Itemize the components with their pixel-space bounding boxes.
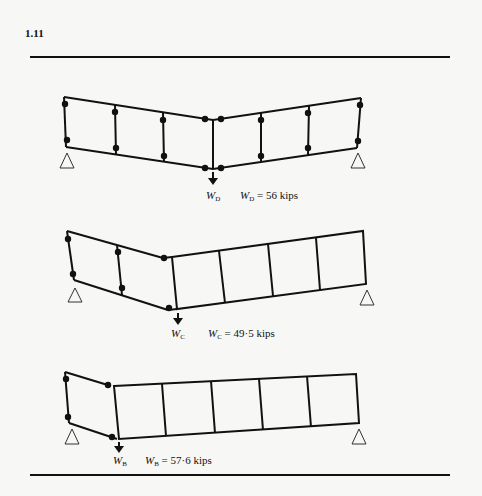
hinge-dot [305, 145, 311, 151]
hinge-dot [166, 305, 172, 311]
load-arrow-C-icon [173, 313, 183, 325]
equation-subscript: C [217, 333, 222, 341]
mechanism-C-truss [67, 231, 366, 310]
hinge-dot [65, 414, 71, 420]
hinge-dot [70, 271, 76, 277]
hinge-dot [258, 117, 264, 123]
hinge-dot [112, 109, 118, 115]
hinge-dot [109, 434, 115, 440]
load-value-B: WB = 57·6 kips [145, 454, 212, 468]
vertical [259, 379, 263, 430]
load-symbol: W [206, 189, 215, 201]
load-label-C: WC [171, 327, 185, 341]
load-symbol: W [171, 327, 180, 339]
hinge-dot [357, 102, 363, 108]
equation-value: = 49·5 kips [225, 327, 275, 339]
hinge-dot [63, 376, 69, 382]
equation-value: = 57·6 kips [162, 454, 212, 466]
bottom-rule [30, 474, 450, 476]
vertical [211, 381, 215, 433]
rigid-panel [172, 231, 366, 309]
vertical [219, 251, 225, 303]
vertical [316, 238, 320, 290]
hinge-dot [161, 153, 167, 159]
hinge-dot [161, 255, 167, 261]
hinge-dot [258, 153, 264, 159]
load-value-C: WC = 49·5 kips [208, 327, 275, 341]
equation-value: = 56 kips [257, 189, 298, 201]
hinge-dot [115, 249, 121, 255]
hinge-dot [105, 382, 111, 388]
hinge-dot [218, 165, 224, 171]
support-triangle-icon [352, 429, 366, 444]
bottom-chord [66, 147, 357, 169]
load-label-B: WB [113, 454, 127, 468]
hinge-dot [218, 116, 224, 122]
support-triangle-icon [60, 153, 74, 168]
equation-subscript: D [249, 195, 254, 203]
collapse-mechanism-diagrams [0, 0, 482, 496]
hinge-dot [62, 101, 68, 107]
top-chord-left [65, 372, 111, 386]
hinge-dot [305, 110, 311, 116]
hinge-dot [65, 236, 71, 242]
hinge-dot [202, 116, 208, 122]
top-chord-left [67, 231, 163, 258]
load-subscript: B [122, 460, 127, 468]
hinge-dot [202, 165, 208, 171]
load-value-D: WD = 56 kips [240, 189, 298, 203]
vertical [307, 376, 311, 427]
hinge-dot [119, 285, 125, 291]
load-label-D: WD [206, 189, 220, 203]
equation-symbol: W [145, 454, 154, 466]
support-triangle-icon [65, 429, 79, 444]
load-symbol: W [113, 454, 122, 466]
equation-symbol: W [208, 327, 217, 339]
rigid-panel [114, 374, 359, 439]
top-chord [64, 97, 361, 120]
support-triangle-icon [68, 288, 82, 302]
hinge-dot [160, 117, 166, 123]
hinge-dot [113, 145, 119, 151]
support-triangle-icon [351, 153, 365, 168]
mechanism-D-truss [64, 97, 361, 169]
vertical [268, 244, 273, 296]
load-arrow-B-icon [114, 442, 124, 453]
support-triangle-icon [360, 290, 374, 305]
hinge-dot [64, 137, 70, 143]
equation-subscript: B [154, 460, 159, 468]
hinge-dot [355, 138, 361, 144]
load-subscript: C [180, 333, 185, 341]
load-arrow-D-icon [208, 172, 218, 185]
vertical [162, 384, 166, 436]
load-subscript: D [215, 195, 220, 203]
equation-symbol: W [240, 189, 249, 201]
